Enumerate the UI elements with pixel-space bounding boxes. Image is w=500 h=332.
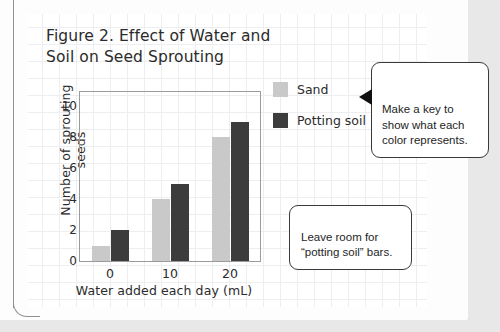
- bars-layer: [80, 91, 260, 261]
- bar-potting-soil-0: [111, 230, 129, 261]
- y-axis-tick-label: 8: [53, 130, 77, 144]
- y-axis-tick-label: 10: [53, 99, 77, 113]
- legend-item: Potting soil: [273, 113, 368, 128]
- bar-potting-soil-10: [171, 184, 189, 261]
- legend-label: Potting soil: [297, 113, 366, 128]
- bar-sand-10: [152, 199, 170, 261]
- callout-make-a-key: Make a key to show what each color repre…: [371, 62, 489, 158]
- x-axis-tick-label: 20: [210, 266, 250, 281]
- callout-room-text: Leave room for “potting soil” bars.: [301, 231, 392, 259]
- bar-sand-0: [92, 246, 110, 261]
- legend-label: Sand: [297, 82, 328, 97]
- y-axis-tick-label: 4: [53, 192, 77, 206]
- x-axis-tick-label: 10: [150, 266, 190, 281]
- legend-item: Sand: [273, 82, 368, 97]
- y-axis-tick-label: 0: [53, 254, 77, 268]
- callout-key-text: Make a key to show what each color repre…: [382, 103, 468, 146]
- callout-pointer-arrow-icon: [359, 89, 372, 105]
- x-axis-tick-label: 0: [90, 266, 130, 281]
- x-axis-title: Water added each day (mL): [53, 283, 275, 298]
- callout-leave-room: Leave room for “potting soil” bars.: [289, 205, 412, 270]
- margin-rule-line: [13, 0, 14, 308]
- bar-potting-soil-20: [231, 122, 249, 261]
- figure-title: Figure 2. Effect of Water and Soil on Se…: [46, 26, 296, 68]
- bar-chart: Number of sprouting seeds 0246810 01020 …: [45, 88, 275, 293]
- y-axis-tick-label: 2: [53, 223, 77, 237]
- bar-sand-20: [212, 137, 230, 261]
- chart-legend: SandPotting soil: [273, 82, 368, 144]
- legend-color-swatch: [273, 82, 288, 97]
- legend-color-swatch: [273, 113, 288, 128]
- y-axis-tick-label: 6: [53, 161, 77, 175]
